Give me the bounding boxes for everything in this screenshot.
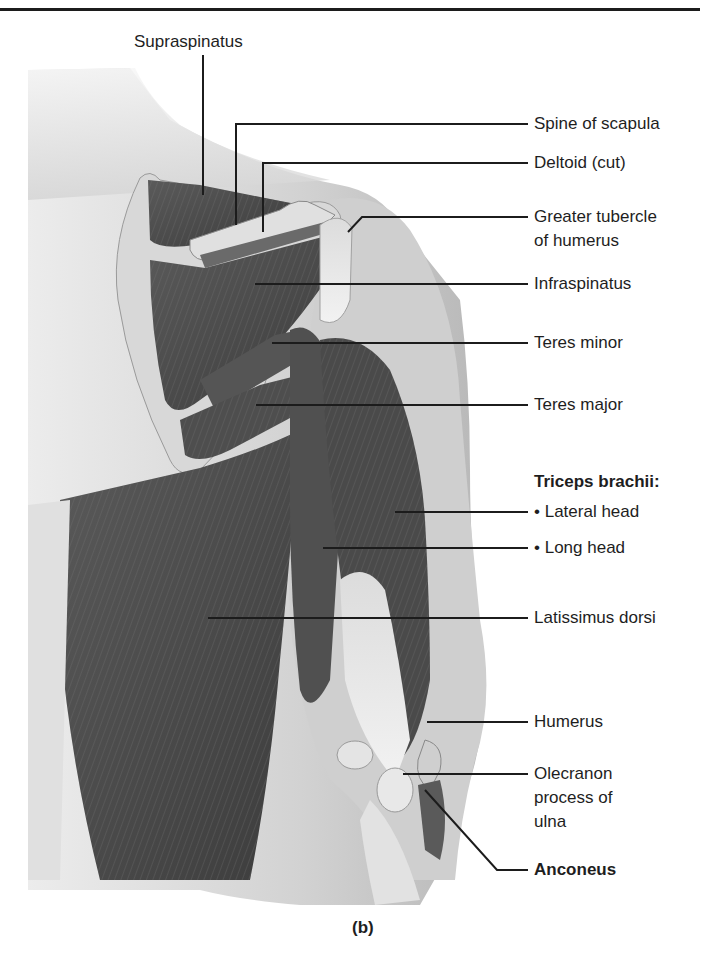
- label-greater-tubercle-2: of humerus: [534, 231, 619, 251]
- label-deltoid-cut: Deltoid (cut): [534, 153, 626, 173]
- label-latissimus-dorsi: Latissimus dorsi: [534, 608, 656, 628]
- label-long-head: • Long head: [534, 538, 625, 558]
- label-teres-minor: Teres minor: [534, 333, 623, 353]
- label-olecranon-3: ulna: [534, 812, 566, 832]
- label-supraspinatus: Supraspinatus: [134, 32, 243, 52]
- label-humerus: Humerus: [534, 712, 603, 732]
- label-anconeus: Anconeus: [534, 860, 616, 880]
- label-lateral-head: • Lateral head: [534, 502, 639, 522]
- label-olecranon-2: process of: [534, 788, 612, 808]
- label-spine-of-scapula: Spine of scapula: [534, 114, 660, 134]
- greater-tubercle: [320, 218, 352, 322]
- neck: [28, 68, 330, 200]
- label-infraspinatus: Infraspinatus: [534, 274, 631, 294]
- medial-epicondyle: [337, 741, 373, 769]
- label-triceps-heading: Triceps brachii:: [534, 472, 660, 492]
- label-teres-major: Teres major: [534, 395, 623, 415]
- label-greater-tubercle-1: Greater tubercle: [534, 207, 657, 227]
- label-olecranon-1: Olecranon: [534, 764, 612, 784]
- panel-label: (b): [352, 918, 374, 938]
